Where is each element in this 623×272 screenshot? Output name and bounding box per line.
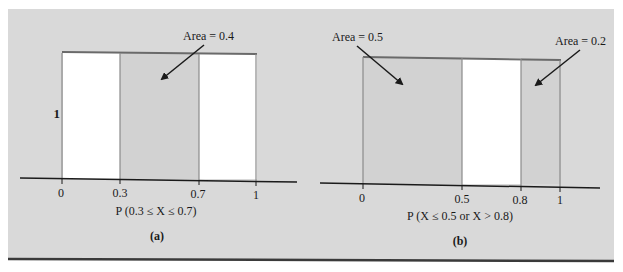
tick-label-0.3: 0.3 <box>113 186 128 200</box>
panel-label-a: (a) <box>150 229 164 243</box>
shaded-region-0-0.5 <box>363 57 462 184</box>
tick-label-0: 0 <box>58 186 64 200</box>
unshaded-region-0.5-0.8 <box>462 58 521 184</box>
shaded-region-0.3-0.7 <box>120 53 199 179</box>
tick-label-0.5: 0.5 <box>455 192 470 206</box>
panel-label-b: (b) <box>453 234 468 248</box>
tick-label-1: 1 <box>253 188 259 202</box>
tick-label-0.7: 0.7 <box>191 187 206 201</box>
tick-label-0.8: 0.8 <box>513 193 528 207</box>
unshaded-region-left <box>63 53 120 179</box>
uniform-probability-figure: 1 0 0.3 0.7 1 P (0.3 ≤ X ≤ 0.7) (a) Area… <box>0 0 623 272</box>
annotation-area-0.2: Area = 0.2 <box>555 34 606 48</box>
density-label: 1 <box>54 106 61 121</box>
shaded-region-0.8-1 <box>521 59 561 184</box>
caption-b: P (X ≤ 0.5 or X > 0.8) <box>407 209 513 223</box>
annotation-area-0.4: Area = 0.4 <box>183 29 234 43</box>
caption-a: P (0.3 ≤ X ≤ 0.7) <box>115 204 196 218</box>
annotation-area-0.5: Area = 0.5 <box>332 30 383 44</box>
tick-label-1: 1 <box>557 193 563 207</box>
tick-label-0: 0 <box>359 191 365 205</box>
unshaded-region-right <box>199 53 257 179</box>
